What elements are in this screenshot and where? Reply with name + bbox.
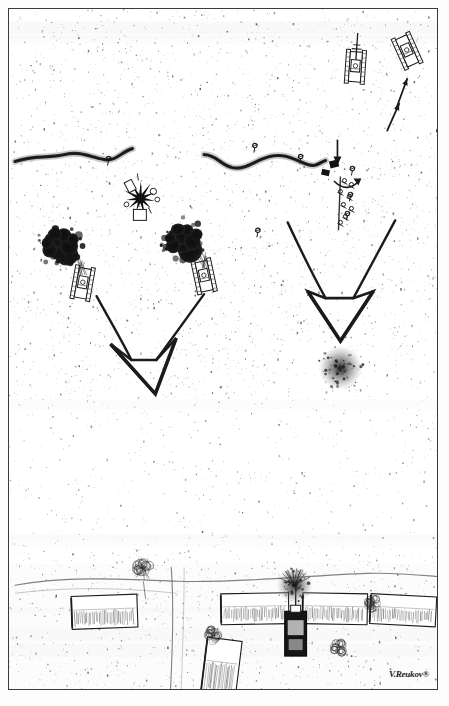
- artwork-frame: V.Reukov®: [8, 8, 438, 690]
- village-bottom: [9, 557, 438, 690]
- smoke-plume: [160, 215, 205, 263]
- trench-right: [204, 155, 325, 169]
- village-group: [9, 557, 438, 690]
- soldier-marker-3: [255, 228, 261, 237]
- advancing-truck-top: [391, 31, 423, 70]
- shell-crater-right: [318, 346, 364, 390]
- soldier-marker-2: [252, 143, 258, 152]
- explosion-group: [124, 174, 364, 604]
- attack-arrow-group: [97, 79, 408, 394]
- building-5: [201, 637, 242, 690]
- soldier-marker-8: [436, 128, 438, 137]
- ink-drawing-layer: [9, 9, 437, 689]
- building-3: [302, 593, 367, 625]
- small-arrow-upper: [396, 79, 407, 109]
- infantry-marker-group: [52, 128, 438, 247]
- soldier-marker-5: [349, 166, 355, 175]
- explosion-burst-center: [124, 174, 160, 221]
- explosion-village: [277, 567, 313, 603]
- artist-signature: V.Reukov®: [389, 669, 429, 679]
- attack-arrow-right: [288, 220, 395, 341]
- trench-left: [15, 149, 132, 162]
- battle-scene: V.Reukov®: [9, 9, 437, 689]
- burning-tank-right: [160, 215, 218, 295]
- advancing-tank-top: [344, 32, 367, 84]
- trench-group: [15, 149, 326, 168]
- building-1: [71, 594, 138, 629]
- building-2: [221, 593, 289, 625]
- attack-arrow-left: [97, 294, 204, 394]
- infantry-cluster-right: [321, 159, 354, 230]
- artwork-page: V.Reukov®: [0, 0, 449, 706]
- burning-tank-left: [37, 225, 95, 301]
